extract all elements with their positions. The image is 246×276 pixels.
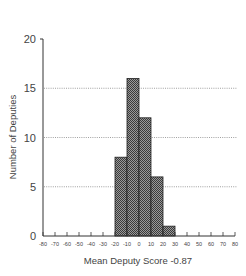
y-tick-label: 10: [24, 132, 36, 144]
histogram-bar: [163, 226, 175, 236]
x-tick-label: 50: [196, 241, 202, 247]
histogram-bars: [115, 78, 175, 236]
histogram-bar: [139, 118, 151, 236]
x-tick-label: 70: [220, 241, 226, 247]
x-tick-label: 0: [137, 241, 140, 247]
x-tick-label: -40: [87, 241, 95, 247]
y-axis-label: Number of Deputies: [7, 95, 18, 180]
x-tick-label: 80: [232, 241, 238, 247]
y-tick-label: 20: [24, 33, 36, 45]
histogram-bar: [151, 177, 163, 236]
y-tick-label: 5: [30, 181, 36, 193]
histogram-bar: [127, 78, 139, 236]
y-axis-ticks: 05101520: [24, 33, 36, 242]
histogram-bar: [115, 157, 127, 236]
y-tick-label: 15: [24, 82, 36, 94]
x-tick-label: -20: [111, 241, 119, 247]
x-tick-label: 10: [148, 241, 154, 247]
x-tick-label: -10: [123, 241, 131, 247]
x-tick-label: -30: [99, 241, 107, 247]
x-tick-label: -60: [63, 241, 71, 247]
x-tick-label: 40: [184, 241, 190, 247]
x-tick-label: -80: [39, 241, 47, 247]
x-tick-label: 30: [172, 241, 178, 247]
y-tick-label: 0: [30, 230, 36, 242]
x-axis-label: Mean Deputy Score -0.87: [84, 255, 192, 266]
x-tick-label: -50: [75, 241, 83, 247]
x-tick-label: 60: [208, 241, 214, 247]
x-tick-label: 20: [160, 241, 166, 247]
histogram-chart: 05101520 -80-70-60-50-40-30-20-100102030…: [0, 0, 246, 276]
x-tick-label: -70: [51, 241, 59, 247]
